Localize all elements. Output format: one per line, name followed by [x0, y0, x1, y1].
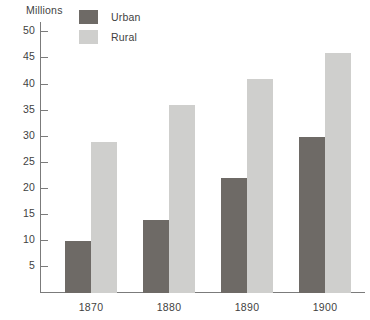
y-axis-tick-label: 45 [23, 50, 35, 62]
bar-urban-1880 [143, 220, 169, 293]
bar-rural-1890 [247, 79, 273, 293]
bars-layer [40, 22, 365, 293]
bar-group [299, 22, 351, 293]
bar-group [221, 22, 273, 293]
bar-urban-1890 [221, 178, 247, 293]
y-axis-tick-label: 35 [23, 103, 35, 115]
y-axis-tick-label: 20 [23, 181, 35, 193]
x-axis-label: 1870 [65, 301, 117, 313]
y-axis-tick-label: 5 [29, 259, 35, 271]
x-axis-label: 1900 [299, 301, 351, 313]
bar-group [143, 22, 195, 293]
bar-rural-1900 [325, 53, 351, 293]
y-axis-tick-label: 25 [23, 155, 35, 167]
y-axis-tick-label: 40 [23, 77, 35, 89]
y-axis-tick-label: 15 [23, 207, 35, 219]
bar-rural-1870 [91, 142, 117, 293]
y-axis-tick-label: 50 [23, 24, 35, 36]
y-axis-unit-label: Millions [26, 4, 63, 16]
x-axis-label: 1890 [221, 301, 273, 313]
y-axis-tick-label: 30 [23, 129, 35, 141]
x-axis-label: 1880 [143, 301, 195, 313]
bar-chart: Millions UrbanRural 5101520253035404550 … [0, 0, 370, 320]
bar-urban-1870 [65, 241, 91, 293]
bar-urban-1900 [299, 137, 325, 293]
bar-rural-1880 [169, 105, 195, 293]
bar-group [65, 22, 117, 293]
plot-area: 5101520253035404550 1870188018901900 [40, 22, 365, 293]
y-axis-tick-label: 10 [23, 233, 35, 245]
